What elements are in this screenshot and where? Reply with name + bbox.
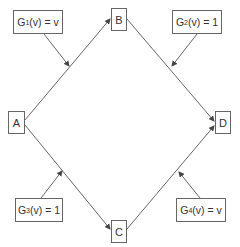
g4-prefix: G: [180, 204, 188, 216]
g1-suffix: (v) = v: [29, 16, 58, 28]
edge-b-d: [127, 19, 214, 121]
g1-prefix: G: [17, 16, 25, 28]
function-label-g4: G4(v) = v: [176, 198, 226, 222]
function-label-g1: G1(v) = v: [13, 10, 63, 34]
g2-prefix: G: [176, 16, 184, 28]
pointer-g1: [44, 34, 69, 66]
pointer-g2: [172, 34, 197, 66]
g4-suffix: (v) = v: [192, 204, 221, 216]
pointer-g3: [41, 171, 62, 198]
function-label-g2: G2(v) = 1: [172, 10, 222, 34]
pointer-g4: [179, 172, 200, 198]
edge-a-b: [25, 19, 110, 120]
node-d: D: [215, 111, 231, 134]
g3-suffix: (v) = 1: [30, 204, 60, 216]
g2-suffix: (v) = 1: [188, 16, 218, 28]
g3-prefix: G: [18, 204, 26, 216]
node-c: C: [111, 220, 127, 243]
node-b: B: [111, 8, 127, 31]
function-label-g3: G3(v) = 1: [15, 198, 63, 222]
node-a: A: [8, 111, 25, 134]
